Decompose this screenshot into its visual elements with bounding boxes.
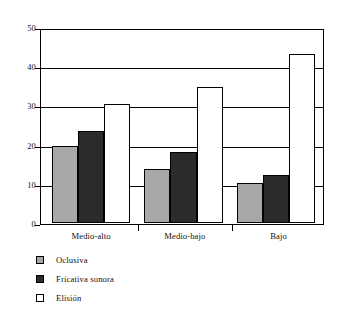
y-tick-mark-50: [35, 29, 40, 30]
bar-medio-bajo-oclusiva: [144, 169, 170, 223]
bar-medio-alto-fricativa-sonora: [78, 131, 104, 224]
y-tick-mark-10: [35, 186, 40, 187]
legend-item-elision: Elisión: [36, 288, 216, 307]
dark-square-icon: [36, 275, 44, 283]
bar-chart-figure: 50 40 30 20 10 0: [0, 0, 360, 322]
plot-area: [40, 29, 324, 225]
x-label-medio-alto: Medio-alto: [72, 231, 111, 241]
bar-medio-bajo-fricativa-sonora: [170, 152, 196, 223]
bar-medio-alto-elision: [104, 104, 130, 224]
bar-group-medio-bajo: [143, 31, 227, 224]
y-axis: 50 40 30 20 10 0: [14, 29, 36, 225]
x-label-bajo: Bajo: [270, 231, 287, 241]
x-label-medio-bajo: Medio-bajo: [164, 231, 205, 241]
legend-item-fricativa-sonora: Fricativa sonora: [36, 269, 216, 288]
x-axis-labels: Medio-alto Medio-bajo Bajo: [40, 231, 324, 245]
bar-bajo-oclusiva: [237, 183, 263, 223]
bar-groups: [42, 31, 323, 224]
white-square-icon: [36, 294, 44, 302]
y-tick-mark-20: [35, 147, 40, 148]
y-tick-mark-40: [35, 68, 40, 69]
bar-group-bajo: [235, 31, 319, 224]
bar-medio-alto-oclusiva: [52, 146, 78, 223]
chart-legend: Oclusiva Fricativa sonora Elisión: [36, 250, 216, 307]
bar-bajo-fricativa-sonora: [263, 175, 289, 223]
bar-medio-bajo-elision: [197, 87, 223, 224]
legend-label-oclusiva: Oclusiva: [56, 255, 88, 265]
bar-bajo-elision: [289, 54, 315, 224]
y-tick-mark-30: [35, 107, 40, 108]
bar-group-medio-alto: [50, 31, 134, 224]
gray-square-icon: [36, 256, 44, 264]
legend-item-oclusiva: Oclusiva: [36, 250, 216, 269]
legend-label-fricativa-sonora: Fricativa sonora: [56, 274, 114, 284]
legend-label-elision: Elisión: [56, 293, 81, 303]
